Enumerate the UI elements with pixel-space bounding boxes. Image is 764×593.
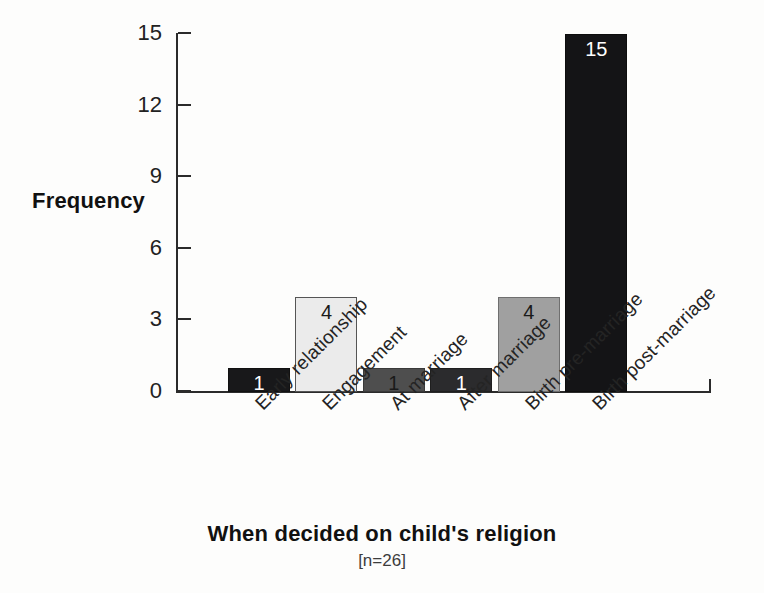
plot-area: 1411415	[178, 33, 711, 392]
y-axis-tick-label: 0	[116, 378, 162, 404]
y-axis-tick-label: 12	[116, 92, 162, 118]
bar-value-label: 15	[566, 39, 626, 59]
x-axis-title: When decided on child's religion	[0, 521, 764, 547]
y-axis-tick-label: 3	[116, 306, 162, 332]
bar-chart: Frequency 03691215 1411415 Early relatio…	[0, 0, 764, 593]
y-axis-title: Frequency	[32, 188, 145, 214]
x-axis-subtitle: [n=26]	[0, 551, 764, 571]
y-axis-tick-label: 15	[116, 20, 162, 46]
y-axis-tick-label: 9	[116, 163, 162, 189]
bar-value-label: 4	[499, 302, 559, 322]
y-axis-tick-label: 6	[116, 235, 162, 261]
